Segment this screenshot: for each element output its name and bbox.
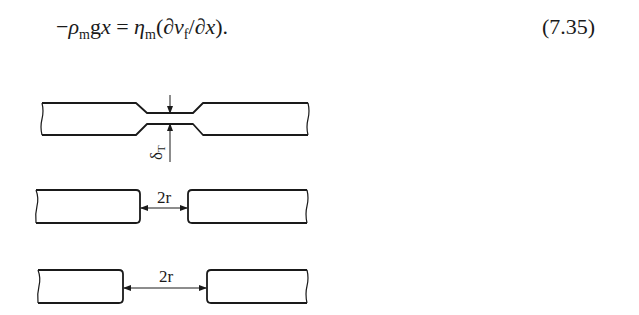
necked-fiber-shape — [41, 103, 309, 135]
svg-text:δT: δT — [147, 145, 167, 160]
fiber-breakup-figure: δT 2r 2r — [0, 0, 639, 315]
broken-fiber-left-3 — [38, 270, 123, 303]
broken-fiber-right-3 — [207, 270, 308, 303]
broken-fiber-right-2 — [188, 190, 308, 223]
gap-label-2: 2r — [157, 188, 172, 207]
delta-t-label: δT — [147, 145, 167, 160]
gap-label-3: 2r — [159, 267, 174, 286]
broken-fiber-left-2 — [36, 190, 140, 223]
